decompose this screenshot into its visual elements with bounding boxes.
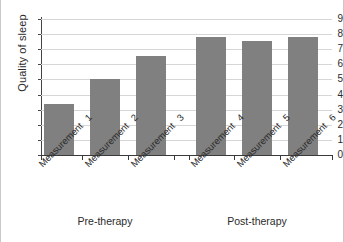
y-axis-title: Quality of sleep [16, 0, 28, 113]
x-axis-tick-mark [332, 156, 333, 160]
bar-chart-figure: Quality of sleep 0123456789 Measurement1… [0, 0, 344, 242]
x-axis-group-label: Post-therapy [197, 215, 317, 227]
plot-area [41, 19, 332, 155]
gridline [41, 34, 332, 35]
gridline [41, 19, 332, 20]
x-axis-tick-mark [174, 156, 175, 160]
x-axis-group-label: Pre-therapy [45, 215, 165, 227]
